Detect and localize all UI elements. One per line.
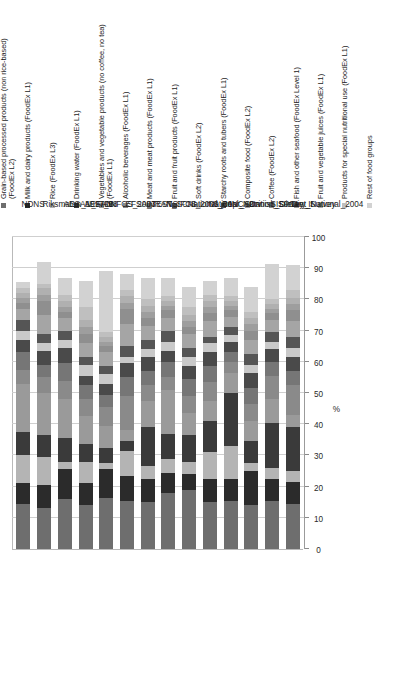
bar-segment[interactable] xyxy=(120,274,134,290)
bar-segment[interactable] xyxy=(161,434,175,459)
legend-item[interactable]: Vegetables and vegetable products (no co… xyxy=(98,0,122,208)
bar-segment[interactable] xyxy=(79,484,93,506)
bar-segment[interactable] xyxy=(161,310,175,318)
stacked-bar[interactable] xyxy=(161,237,175,549)
stacked-bar[interactable] xyxy=(79,237,93,549)
bar-segment[interactable] xyxy=(182,396,196,413)
bar-segment[interactable] xyxy=(182,321,196,327)
bar-segment[interactable] xyxy=(265,376,279,399)
legend-item[interactable]: Starchy roots and tubers (FoodEx L1) xyxy=(220,0,244,208)
legend-item[interactable]: Drinking water (FoodEx L1) xyxy=(73,0,97,208)
bar-segment[interactable] xyxy=(37,284,51,289)
bar-segment[interactable] xyxy=(182,328,196,334)
bar-segment[interactable] xyxy=(244,441,258,463)
bar-segment[interactable] xyxy=(182,315,196,321)
bar-segment[interactable] xyxy=(265,468,279,479)
bar-segment[interactable] xyxy=(37,485,51,508)
bar-segment[interactable] xyxy=(244,373,258,389)
bar-segment[interactable] xyxy=(286,348,300,357)
bar-segment[interactable] xyxy=(224,352,238,361)
bar-segment[interactable] xyxy=(286,471,300,482)
bar-segment[interactable] xyxy=(58,312,72,318)
bar-segment[interactable] xyxy=(224,278,238,297)
bar-segment[interactable] xyxy=(141,385,155,401)
bar-segment[interactable] xyxy=(37,295,51,301)
bar-segment[interactable] xyxy=(182,348,196,357)
bar-segment[interactable] xyxy=(203,337,217,343)
bar-segment[interactable] xyxy=(79,281,93,308)
bar-segment[interactable] xyxy=(265,309,279,314)
bar-segment[interactable] xyxy=(141,306,155,312)
bar-segment[interactable] xyxy=(120,357,134,363)
bar-segment[interactable] xyxy=(120,451,134,476)
legend-item[interactable]: Grain-based processed products (non rice… xyxy=(0,0,24,208)
bar-segment[interactable] xyxy=(37,377,51,393)
bar-segment[interactable] xyxy=(120,346,134,357)
bar-segment[interactable] xyxy=(79,444,93,461)
bar-segment[interactable] xyxy=(224,327,238,335)
bar-segment[interactable] xyxy=(161,342,175,351)
bar-segment[interactable] xyxy=(99,426,113,448)
bar-segment[interactable] xyxy=(224,310,238,316)
bar-segment[interactable] xyxy=(79,328,93,334)
bar-segment[interactable] xyxy=(286,298,300,304)
bar-segment[interactable] xyxy=(182,287,196,307)
bar-segment[interactable] xyxy=(161,331,175,342)
bar-segment[interactable] xyxy=(120,396,134,430)
bar-segment[interactable] xyxy=(37,365,51,377)
bar-segment[interactable] xyxy=(79,385,93,399)
bar-segment[interactable] xyxy=(203,321,217,337)
bar-segment[interactable] xyxy=(37,508,51,549)
bar-segment[interactable] xyxy=(161,493,175,549)
bar-segment[interactable] xyxy=(224,362,238,373)
bar-segment[interactable] xyxy=(37,289,51,295)
bar-segment[interactable] xyxy=(99,271,113,332)
bar-segment[interactable] xyxy=(120,296,134,302)
bar-segment[interactable] xyxy=(99,374,113,383)
legend-item[interactable]: Products for special nutritional use (Fo… xyxy=(341,0,365,208)
legend-item[interactable]: Fruit and vegetable juices (FoodEx L1) xyxy=(317,0,341,208)
stacked-bar[interactable] xyxy=(244,237,258,549)
bar-segment[interactable] xyxy=(141,371,155,385)
bar-segment[interactable] xyxy=(16,282,30,288)
bar-segment[interactable] xyxy=(203,352,217,366)
bar-segment[interactable] xyxy=(224,479,238,501)
bar-segment[interactable] xyxy=(244,421,258,441)
stacked-bar[interactable] xyxy=(58,237,72,549)
bar-segment[interactable] xyxy=(265,313,279,319)
bar-segment[interactable] xyxy=(182,435,196,462)
bar-segment[interactable] xyxy=(37,301,51,315)
bar-segment[interactable] xyxy=(58,499,72,549)
bar-segment[interactable] xyxy=(182,307,196,315)
bar-segment[interactable] xyxy=(286,482,300,504)
bar-segment[interactable] xyxy=(265,342,279,350)
bar-segment[interactable] xyxy=(79,416,93,444)
bar-segment[interactable] xyxy=(224,373,238,393)
bar-segment[interactable] xyxy=(99,366,113,374)
stacked-bar[interactable] xyxy=(16,237,30,549)
bar-segment[interactable] xyxy=(161,318,175,330)
bar-segment[interactable] xyxy=(141,312,155,318)
legend-item[interactable]: Composite food (FoodEx L2) xyxy=(244,0,268,208)
legend-item[interactable]: Fruit and fruit products (FoodEx L1) xyxy=(171,0,195,208)
stacked-bar[interactable] xyxy=(224,237,238,549)
bar-segment[interactable] xyxy=(286,371,300,385)
bar-segment[interactable] xyxy=(120,430,134,441)
stacked-bar[interactable] xyxy=(99,237,113,549)
bar-segment[interactable] xyxy=(120,303,134,309)
bar-segment[interactable] xyxy=(16,289,30,294)
bar-segment[interactable] xyxy=(58,340,72,348)
bar-segment[interactable] xyxy=(79,365,93,376)
bar-segment[interactable] xyxy=(161,296,175,301)
bar-segment[interactable] xyxy=(244,312,258,318)
bar-segment[interactable] xyxy=(16,331,30,340)
bar-segment[interactable] xyxy=(141,502,155,549)
bar-segment[interactable] xyxy=(224,317,238,328)
bar-segment[interactable] xyxy=(141,340,155,349)
bar-segment[interactable] xyxy=(161,301,175,306)
bar-segment[interactable] xyxy=(161,390,175,434)
bar-segment[interactable] xyxy=(224,501,238,549)
bar-segment[interactable] xyxy=(244,318,258,324)
stacked-bar[interactable] xyxy=(141,237,155,549)
bar-segment[interactable] xyxy=(286,415,300,427)
